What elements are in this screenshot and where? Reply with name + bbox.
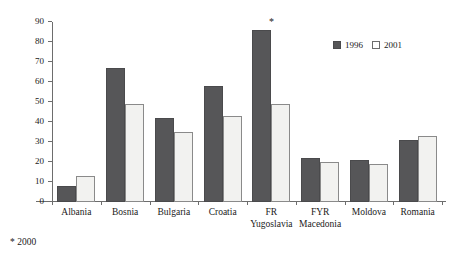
bar-group [57, 22, 95, 202]
y-axis-tick-label: 50 [35, 95, 44, 108]
chart-legend: 1996 2001 [333, 40, 402, 50]
y-axis-tick-label: 0 [40, 195, 45, 208]
bar-group [106, 22, 144, 202]
bar [350, 160, 369, 202]
legend-swatch-1996 [333, 41, 341, 49]
category-label-line1: Bosnia [112, 207, 138, 217]
bar [252, 30, 271, 202]
y-axis-tick-label: 60 [35, 75, 44, 88]
bar [223, 116, 242, 202]
bar-chart: 0102030405060708090 * AlbaniaBosniaBulga… [0, 0, 465, 258]
x-axis-tick-mark [442, 201, 443, 205]
legend-label-2001: 2001 [384, 40, 402, 50]
bar [369, 164, 388, 202]
y-axis-tick-label: 30 [35, 135, 44, 148]
legend-swatch-2001 [372, 41, 380, 49]
category-label-line1: Romania [400, 207, 434, 217]
category-label-line2: Macedonia [290, 218, 351, 230]
bar-annotation-asterisk: * [269, 17, 274, 27]
x-axis-category-label: Romania [387, 206, 448, 218]
bar [57, 186, 76, 202]
bar [204, 86, 223, 202]
bar [106, 68, 125, 202]
y-axis-tick-label: 10 [35, 175, 44, 188]
bar [399, 140, 418, 202]
bar [418, 136, 437, 202]
chart-footnote: * 2000 [10, 236, 36, 248]
legend-label-1996: 1996 [345, 40, 363, 50]
y-axis-tick-label: 70 [35, 55, 44, 68]
category-label-line1: FYR [311, 207, 329, 217]
bar-group: * [252, 22, 290, 202]
bar [125, 104, 144, 202]
category-label-line1: Croatia [209, 207, 237, 217]
bar [320, 162, 339, 202]
bar [155, 118, 174, 202]
bar-group [155, 22, 193, 202]
y-axis-tick-label: 20 [35, 155, 44, 168]
bar [271, 104, 290, 202]
category-label-line1: Bulgaria [158, 207, 191, 217]
bar [301, 158, 320, 202]
legend-item-2001: 2001 [372, 40, 402, 50]
y-axis-tick-label: 80 [35, 35, 44, 48]
y-axis-tick-label: 90 [35, 15, 44, 28]
bar-group [204, 22, 242, 202]
category-label-line1: FR [266, 207, 278, 217]
bar [174, 132, 193, 202]
y-axis-tick-label: 40 [35, 115, 44, 128]
bar-group [399, 22, 437, 202]
bar [76, 176, 95, 202]
category-label-line1: Albania [61, 207, 91, 217]
category-label-line1: Moldova [352, 207, 386, 217]
legend-item-1996: 1996 [333, 40, 363, 50]
